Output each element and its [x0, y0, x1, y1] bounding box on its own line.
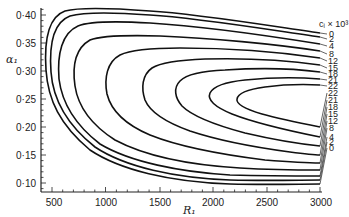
y-tick-label: 0·15	[16, 150, 36, 161]
x-axis-label: R₁	[182, 204, 196, 217]
x-tick-label: 1500	[149, 197, 172, 208]
lower-contour-labels: 22 21 18 15 12 8 4 2 0	[328, 88, 338, 153]
contour-level-0	[46, 8, 320, 184]
label-leaders	[320, 33, 327, 184]
contour-label: 0	[329, 143, 334, 153]
contour-level-15	[143, 59, 320, 155]
y-tick-label: 0·25	[16, 94, 36, 105]
contour-lines	[46, 8, 320, 184]
x-axis-ticks	[52, 187, 320, 192]
x-tick-label: 2500	[256, 197, 279, 208]
y-tick-labels: 0·40 0·35 0·30 0·25 0·20 0·15 0·10	[16, 10, 36, 189]
y-axis-label: α₁	[6, 53, 18, 66]
contour-chart: 0·40 0·35 0·30 0·25 0·20 0·15 0·10 500 1…	[0, 0, 349, 217]
contour-level-4	[59, 22, 320, 176]
contour-level-12	[106, 48, 320, 163]
legend-title: cᵢ × 10³	[319, 19, 348, 29]
y-tick-label: 0·30	[16, 66, 36, 77]
x-tick-label: 3000	[310, 197, 333, 208]
y-tick-label: 0·40	[16, 10, 36, 21]
x-tick-label: 2000	[202, 197, 225, 208]
x-tick-label: 500	[46, 197, 63, 208]
y-tick-label: 0·35	[16, 38, 36, 49]
y-tick-label: 0·10	[16, 178, 36, 189]
x-tick-label: 1000	[95, 197, 118, 208]
upper-contour-labels: 0 2 4 8 12 15 18 21 22	[328, 29, 338, 91]
y-tick-label: 0·20	[16, 122, 36, 133]
y-axis-ticks	[41, 9, 46, 188]
axes	[41, 8, 322, 192]
